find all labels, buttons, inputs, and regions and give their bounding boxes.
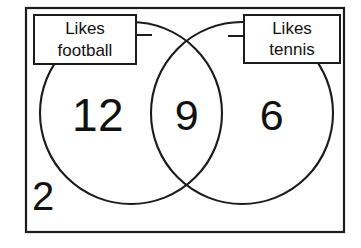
set-label-football-line1: Likes: [65, 18, 105, 39]
set-label-tennis: Likes tennis: [243, 14, 341, 64]
set-label-football-line2: football: [58, 40, 113, 61]
set-label-football: Likes football: [33, 14, 137, 65]
region-count-neither: 2: [32, 176, 72, 216]
region-count-football-only: 12: [62, 92, 134, 138]
region-count-tennis-only: 6: [240, 94, 304, 137]
set-label-tennis-line2: tennis: [269, 39, 314, 60]
region-count-both: 9: [155, 94, 219, 137]
set-label-tennis-line1: Likes: [272, 18, 312, 39]
venn-diagram-figure: Likes football Likes tennis 12 9 6 2: [0, 0, 361, 248]
